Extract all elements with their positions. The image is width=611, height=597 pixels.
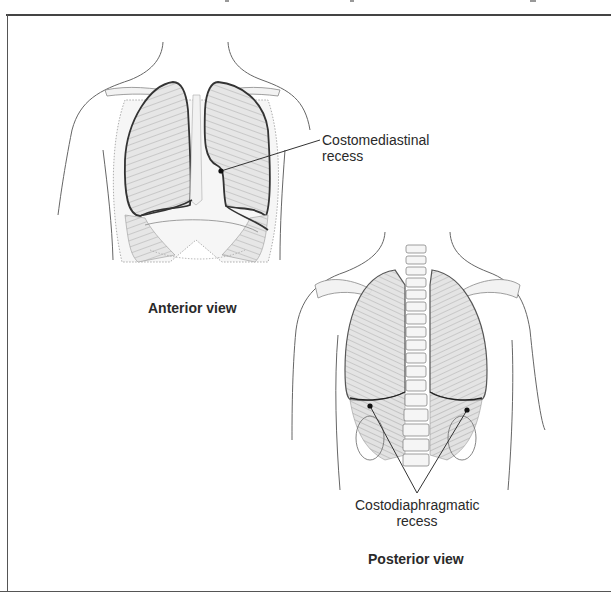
posterior-view-illustration	[0, 0, 611, 597]
callout-line-2: recess	[355, 513, 479, 529]
posterior-view-title: Posterior view	[368, 551, 464, 567]
costodiaphragmatic-recess-label: Costodiaphragmatic recess	[355, 497, 479, 529]
callout-line-1: Costodiaphragmatic	[355, 497, 479, 513]
